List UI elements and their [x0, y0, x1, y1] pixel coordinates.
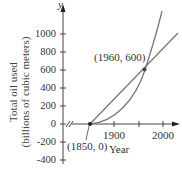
- exponential-model-curve: [90, 11, 162, 124]
- y-tick-label: -400: [26, 155, 56, 165]
- point-1960-600: [143, 68, 147, 72]
- y-axis-letter: y: [58, 0, 63, 10]
- x-tick-label: 2000: [152, 130, 174, 141]
- axis-break-icon: [66, 121, 73, 127]
- point-1850-0: [88, 122, 92, 126]
- y-tick-label: -200: [26, 137, 56, 147]
- chart: y Total oil used (billions of cubic mete…: [0, 0, 182, 173]
- y-axis-label-line-1: Total oil used: [7, 17, 19, 167]
- y-tick-label: 1000: [26, 29, 56, 39]
- annotation-1960-600: (1960, 600): [94, 52, 145, 63]
- annotation-leader: [86, 126, 89, 140]
- x-axis-arrow-icon: [172, 122, 180, 127]
- linear-model-line: [90, 33, 178, 124]
- y-tick-label: 0: [26, 119, 56, 129]
- y-tick-label: 400: [26, 83, 56, 93]
- x-axis-label: Year: [109, 144, 129, 155]
- y-tick-label: 600: [26, 65, 56, 75]
- annotation-1850-0: (1850, 0): [67, 141, 107, 152]
- y-tick-label: 200: [26, 101, 56, 111]
- y-tick-label: 800: [26, 47, 56, 57]
